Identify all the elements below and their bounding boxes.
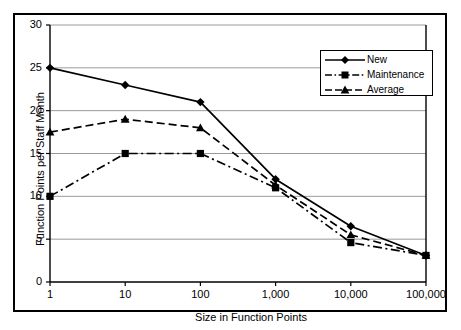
data-point-marker xyxy=(122,150,129,157)
chart-outer-border: Function Points per Staff Month Size in … xyxy=(13,13,447,312)
data-point-marker xyxy=(347,222,355,230)
y-tick-label: 10 xyxy=(12,189,42,201)
legend-marker-square-icon xyxy=(324,68,366,82)
x-tick-label: 1 xyxy=(15,288,85,300)
y-axis-title: Function Points per Staff Month xyxy=(34,59,46,279)
data-point-marker xyxy=(121,81,129,89)
y-tick-label: 25 xyxy=(12,61,42,73)
legend-item-new[interactable]: New xyxy=(321,53,434,68)
x-tick-label: 10 xyxy=(90,288,160,300)
data-point-marker xyxy=(347,239,354,246)
y-tick-label: 30 xyxy=(12,18,42,30)
y-tick-label: 15 xyxy=(12,147,42,159)
legend-label-maintenance: Maintenance xyxy=(367,69,424,80)
y-tick-label: 5 xyxy=(12,232,42,244)
x-axis-title: Size in Function Points xyxy=(63,311,439,323)
legend-label-average: Average xyxy=(367,84,404,95)
legend-marker-triangle-icon xyxy=(324,83,366,97)
legend-item-average[interactable]: Average xyxy=(321,83,434,98)
y-tick-label: 20 xyxy=(12,104,42,116)
y-tick-label: 0 xyxy=(12,275,42,287)
legend-marker-diamond-icon xyxy=(324,53,366,67)
x-tick-label: 100 xyxy=(165,288,235,300)
chart-figure: Function Points per Staff Month Size in … xyxy=(0,0,461,330)
series-line-1 xyxy=(50,154,426,256)
legend-item-maintenance[interactable]: Maintenance xyxy=(321,68,434,83)
x-tick-label: 10,000 xyxy=(316,288,386,300)
x-tick-label: 100,000 xyxy=(391,288,461,300)
data-point-marker xyxy=(346,230,355,238)
data-point-marker xyxy=(46,193,53,200)
x-tick-label: 1,000 xyxy=(241,288,311,300)
data-point-marker xyxy=(46,64,54,72)
legend-label-new: New xyxy=(367,54,387,65)
chart-legend[interactable]: New Maintenance Average xyxy=(320,50,433,96)
data-point-marker xyxy=(197,150,204,157)
